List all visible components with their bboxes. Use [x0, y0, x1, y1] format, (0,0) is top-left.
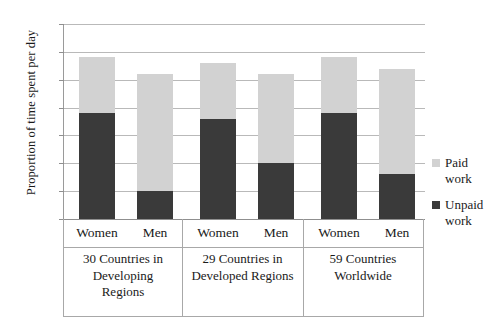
plot-area	[63, 24, 424, 219]
y-axis-tick-mark	[59, 163, 64, 164]
gridline	[64, 52, 425, 53]
y-axis-title: Proportion of time spent per day	[24, 0, 39, 228]
y-axis-tick-mark	[59, 52, 64, 53]
x-axis-category-label-women: Women	[67, 223, 127, 243]
x-axis-group-label-line: 29 Countries in	[182, 251, 303, 268]
bar-segment-unpaid-work	[200, 119, 236, 219]
gridline	[64, 108, 425, 109]
stacked-bar-chart: Proportion of time spent per day 0510152…	[0, 0, 504, 328]
x-axis-group-label-line: 59 Countries	[303, 251, 423, 268]
x-axis-category-label-men: Men	[367, 223, 427, 243]
legend-label-paid-work-line1: Paid	[445, 155, 468, 170]
x-axis-category-label-women: Women	[309, 223, 369, 243]
bar-segment-unpaid-work	[137, 191, 173, 219]
bar-segment-paid-work	[258, 74, 294, 163]
bar-29-countries-in-developed-regions-men	[258, 74, 294, 219]
x-axis-label-block: WomenMenWomenMenWomenMen30 Countries inD…	[63, 219, 424, 317]
bar-segment-unpaid-work	[258, 163, 294, 219]
x-axis-group-label-line: Regions	[64, 284, 182, 301]
x-axis-category-label-women: Women	[188, 223, 248, 243]
legend-swatch-paid-work	[432, 159, 440, 167]
gridline	[64, 135, 425, 136]
legend-label-paid-work-line2: work	[445, 171, 504, 187]
x-axis-group-label: 29 Countries inDeveloped Regions	[182, 251, 303, 284]
bar-segment-paid-work	[379, 69, 415, 175]
bar-segment-unpaid-work	[321, 113, 357, 219]
x-axis-group-label-line: 30 Countries in	[64, 251, 182, 268]
gridline	[64, 80, 425, 81]
y-axis-tick-mark	[59, 191, 64, 192]
bar-29-countries-in-developed-regions-women	[200, 63, 236, 219]
gridline	[64, 191, 425, 192]
x-axis-group-label: 59 CountriesWorldwide	[303, 251, 423, 284]
x-axis-category-label-men: Men	[246, 223, 306, 243]
bar-segment-paid-work	[137, 74, 173, 191]
x-axis-group-label-line: Worldwide	[303, 268, 423, 285]
bar-segment-paid-work	[200, 63, 236, 119]
bar-segment-unpaid-work	[79, 113, 115, 219]
legend-label-unpaid-work-line1: Unpaid	[445, 197, 483, 212]
legend: Paid work Unpaid work	[432, 155, 504, 238]
bar-segment-paid-work	[79, 57, 115, 113]
y-axis-tick-mark	[59, 80, 64, 81]
legend-label-unpaid-work: Unpaid work	[445, 197, 504, 230]
bar-30-countries-in-developing-regions-women	[79, 57, 115, 219]
legend-label-unpaid-work-line2: work	[445, 213, 504, 229]
bar-segment-unpaid-work	[379, 174, 415, 219]
legend-swatch-unpaid-work	[432, 201, 440, 209]
bar-30-countries-in-developing-regions-men	[137, 74, 173, 219]
x-axis-row-divider	[64, 247, 423, 248]
y-axis-tick-mark	[59, 135, 64, 136]
y-axis-tick-mark	[59, 24, 64, 25]
y-axis-tick-mark	[59, 108, 64, 109]
gridline	[64, 163, 425, 164]
legend-item-unpaid-work: Unpaid work	[432, 197, 504, 230]
x-axis-group-label-line: Developing	[64, 268, 182, 285]
gridline	[64, 24, 425, 25]
bar-59-countries-worldwide-women	[321, 57, 357, 219]
bar-segment-paid-work	[321, 57, 357, 113]
x-axis-group-label-line: Developed Regions	[182, 268, 303, 285]
bar-59-countries-worldwide-men	[379, 69, 415, 219]
x-axis-group-label: 30 Countries inDevelopingRegions	[64, 251, 182, 301]
x-axis-category-label-men: Men	[125, 223, 185, 243]
legend-item-paid-work: Paid work	[432, 155, 504, 188]
legend-label-paid-work: Paid work	[445, 155, 504, 188]
